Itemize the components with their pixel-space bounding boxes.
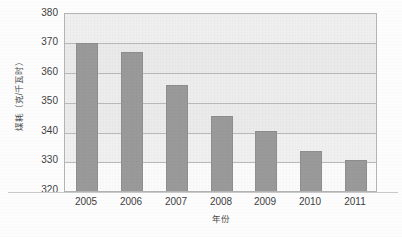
y-tick-label: 360 [41,67,58,77]
gridline [65,103,376,104]
plot-band [65,43,376,73]
x-tick-label: 2011 [333,196,377,208]
x-axis-title: 年份 [64,212,377,224]
y-tick-label: 380 [41,8,58,18]
axis-baseline [8,192,398,193]
x-axis-tick-labels: 2005 2006 2007 2008 2009 2010 2011 [64,196,377,212]
bar-2008 [211,116,233,191]
plot-area [64,13,377,192]
bar-chart-figure: 煤耗（克/千瓦时） 380 370 360 350 340 330 320 [0,0,402,237]
x-tick-label: 2010 [288,196,332,208]
y-tick-label: 330 [41,155,58,165]
bar-2005 [76,43,98,191]
x-tick-label: 2005 [64,196,108,208]
y-tick-label: 370 [41,37,58,47]
bar-2007 [166,85,188,192]
plot-band [65,73,376,103]
y-axis-title: 煤耗（克/千瓦时） [12,39,24,149]
x-tick-label: 2009 [243,196,287,208]
x-tick-label: 2007 [154,196,198,208]
y-axis-tick-labels: 380 370 360 350 340 330 320 [28,0,61,237]
bar-2010 [300,151,322,191]
x-tick-label: 2008 [199,196,243,208]
y-tick-label: 320 [41,185,58,195]
y-tick-label: 340 [41,126,58,136]
x-tick-label: 2006 [109,196,153,208]
bar-2009 [255,131,277,191]
bar-2011 [345,160,367,191]
bar-2006 [121,52,143,191]
y-tick-label: 350 [41,96,58,106]
gridline [65,43,376,44]
gridline [65,73,376,74]
plot-band [65,14,376,43]
